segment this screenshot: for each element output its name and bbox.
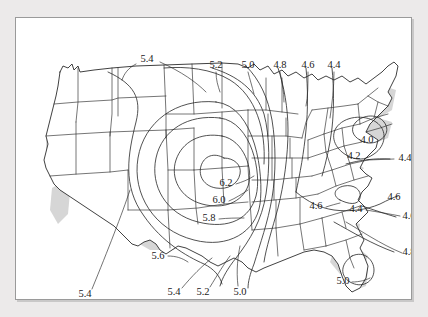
- contour-label-bottom-5-2: 5.2: [196, 286, 209, 297]
- contour-label-center-6-2: 6.2: [219, 177, 232, 188]
- contour-label-top-5-0: 5.0: [241, 59, 254, 70]
- contour-label-se-4-6-b: 4.6: [387, 191, 400, 202]
- contour-label-ne-4-0: 4.0: [360, 134, 373, 145]
- contour-map: 5.4 5.2 5.0 4.8 4.6 4.4 4.0 4.2 4.4 6.2 …: [16, 18, 411, 299]
- contour-label-ne-4-4: 4.4: [398, 152, 411, 163]
- contour-label-left-5-4: 5.4: [78, 288, 92, 299]
- contour-label-top-4-8: 4.8: [273, 59, 286, 70]
- contour-label-se-4-8: 4.8: [402, 246, 411, 257]
- contour-label-ne-4-2: 4.2: [347, 150, 360, 161]
- contour-label-top-4-6: 4.6: [301, 59, 314, 70]
- contour-label-bottom-5-4: 5.4: [167, 286, 181, 297]
- figure-page: 5.4 5.2 5.0 4.8 4.6 4.4 4.0 4.2 4.4 6.2 …: [0, 0, 428, 317]
- contour-label-top-5-2: 5.2: [209, 59, 222, 70]
- contour-label-se-4-4: 4.4: [349, 203, 363, 214]
- contour-label-se-4-6-c: 4.6: [402, 210, 411, 221]
- contour-label-top-5-4: 5.4: [140, 53, 154, 64]
- contour-label-bottom-5-0: 5.0: [233, 286, 246, 297]
- contour-label-center-6-0: 6.0: [212, 194, 225, 205]
- figure-frame: 5.4 5.2 5.0 4.8 4.6 4.4 4.0 4.2 4.4 6.2 …: [15, 17, 412, 300]
- contour-label-top-4-4: 4.4: [327, 59, 341, 70]
- contour-label-se-4-6-a: 4.6: [309, 200, 322, 211]
- contour-label-center-5-8: 5.8: [202, 212, 215, 223]
- contour-label-bottom-5-6: 5.6: [151, 250, 164, 261]
- contour-label-florida-5-0: 5.0: [336, 275, 349, 286]
